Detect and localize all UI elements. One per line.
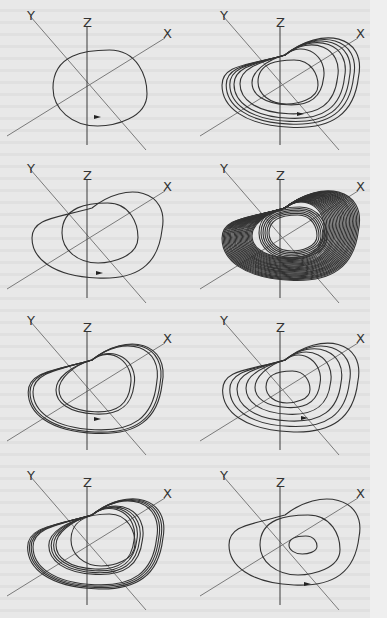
trajectory-loop: [289, 536, 317, 554]
phase-portrait-panel-8: YZX: [193, 460, 386, 615]
trajectory-loop: [263, 210, 323, 256]
direction-arrow-icon: [94, 417, 101, 421]
x-axis-label: X: [356, 331, 365, 346]
y-axis-label: Y: [26, 161, 35, 176]
trajectory-loop: [53, 50, 147, 126]
trajectory-loop: [260, 515, 340, 575]
trajectory: [28, 499, 164, 589]
trajectory: [28, 344, 163, 434]
y-axis: [30, 321, 146, 455]
trajectory-loop: [265, 212, 321, 254]
trajectory-loop: [71, 514, 135, 566]
x-axis-label: X: [163, 486, 172, 501]
z-axis-label: Z: [276, 168, 285, 183]
phase-portrait-panel-2: YZX: [193, 0, 386, 155]
z-axis-label: Z: [83, 15, 92, 30]
x-axis: [7, 343, 165, 441]
phase-portrait-panel-4: YZX: [193, 153, 386, 308]
x-axis: [200, 38, 358, 136]
x-axis-label: X: [163, 179, 172, 194]
phase-portrait-panel-1: YZX: [0, 0, 193, 155]
y-axis-label: Y: [219, 161, 228, 176]
trajectory-loop: [237, 349, 342, 421]
trajectory: [53, 50, 147, 126]
phase-portrait-svg: YZX: [0, 460, 193, 615]
phase-portrait-svg: YZX: [0, 305, 193, 460]
trajectory: [222, 38, 360, 128]
trajectory-loop: [62, 203, 138, 263]
phase-portrait-svg: YZX: [193, 0, 386, 155]
y-axis: [30, 169, 146, 303]
y-axis: [223, 476, 339, 610]
z-axis-label: Z: [276, 15, 285, 30]
direction-arrow-icon: [297, 112, 304, 116]
phase-portrait-panel-7: YZX: [0, 460, 193, 615]
trajectory: [222, 191, 360, 281]
y-axis-label: Y: [26, 313, 35, 328]
x-axis-label: X: [356, 26, 365, 41]
direction-arrow-icon: [96, 271, 103, 275]
y-axis-label: Y: [219, 313, 228, 328]
direction-arrow-icon: [301, 416, 308, 420]
y-axis-label: Y: [26, 8, 35, 23]
trajectory-loop: [255, 355, 320, 408]
x-axis-label: X: [356, 179, 365, 194]
z-axis-label: Z: [83, 475, 92, 490]
x-axis: [7, 38, 165, 136]
phase-portrait-panel-6: YZX: [193, 305, 386, 460]
phase-portrait-svg: YZX: [193, 460, 386, 615]
x-axis: [7, 191, 165, 289]
trajectory-loop: [267, 213, 319, 252]
trajectory: [229, 499, 360, 586]
trajectory-loop: [59, 354, 131, 411]
trajectory-loop: [229, 499, 360, 585]
trajectory-loop: [33, 346, 157, 430]
figure-grid: YZXYZXYZXYZXYZXYZXYZXYZX: [0, 0, 387, 618]
phase-portrait-svg: YZX: [193, 305, 386, 460]
z-axis-label: Z: [276, 320, 285, 335]
y-axis: [223, 321, 339, 455]
phase-portrait-panel-5: YZX: [0, 305, 193, 460]
x-axis-label: X: [356, 486, 365, 501]
phase-portrait-svg: YZX: [0, 0, 193, 155]
y-axis-label: Y: [219, 468, 228, 483]
y-axis: [30, 476, 146, 610]
x-axis-label: X: [163, 26, 172, 41]
z-axis-label: Z: [83, 320, 92, 335]
x-axis: [200, 343, 358, 441]
y-axis-label: Y: [219, 8, 228, 23]
phase-portrait-panel-3: YZX: [0, 153, 193, 308]
y-axis-label: Y: [26, 468, 35, 483]
phase-portrait-svg: YZX: [0, 153, 193, 308]
direction-arrow-icon: [94, 115, 101, 119]
y-axis: [30, 16, 146, 150]
phase-portrait-svg: YZX: [193, 153, 386, 308]
x-axis-label: X: [163, 331, 172, 346]
z-axis-label: Z: [276, 475, 285, 490]
x-axis: [200, 498, 358, 596]
z-axis-label: Z: [83, 168, 92, 183]
trajectory: [223, 343, 359, 432]
